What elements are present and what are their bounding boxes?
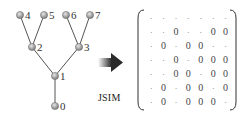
matrix-cell: · [157,67,169,81]
tree-node-4 [16,11,23,18]
matrix-cell: · [145,39,157,53]
matrix-cell: 0 [207,53,219,67]
node-label: 0 [60,100,66,112]
matrix-cell: 0 [195,95,207,109]
matrix-cell: 0 [219,25,231,39]
tree-edge [55,47,79,76]
matrix-cell: 0 [157,81,169,95]
matrix-cell: 0 [219,53,231,67]
matrix-cell: 0 [157,39,169,53]
matrix-cell: · [157,25,169,39]
matrix-cell: 0 [207,25,219,39]
matrix-cell: 0 [182,81,194,95]
tree-edges [20,15,90,106]
matrix-cell: 0 [170,67,182,81]
matrix-cell: · [145,53,157,67]
matrix-cell: · [219,39,231,53]
matrix-cell: 0 [170,53,182,67]
tree-nodes: 01234567 [16,9,101,112]
matrix-cell: 0 [219,81,231,95]
matrix-cell: · [145,67,157,81]
matrix-cell: · [195,25,207,39]
tree-node-3 [75,43,82,50]
matrix-cell: · [219,95,231,109]
node-label: 2 [37,41,43,53]
matrix-cell: · [195,67,207,81]
node-label: 1 [60,70,66,82]
matrix-cell: · [182,25,194,39]
node-label: 3 [84,41,90,53]
tree-node-1 [51,72,58,79]
jsim-matrix: ·········0··00·0·00····0·000··00·00·0·00… [137,8,237,112]
matrix-cell: 0 [182,67,194,81]
matrix-cell: · [145,95,157,109]
matrix-cell: · [207,11,219,25]
matrix-cell: 0 [182,95,194,109]
matrix-cell: · [207,39,219,53]
tree-node-5 [40,11,47,18]
node-label: 7 [95,9,101,21]
matrix-grid: ·········0··00·0·00····0·000··00·00·0·00… [145,11,232,109]
matrix-cell: · [170,81,182,95]
matrix-cell: · [219,11,231,25]
matrix-cell: · [170,95,182,109]
node-label: 6 [71,9,77,21]
matrix-cell: 0 [207,67,219,81]
matrix-cell: 0 [195,39,207,53]
node-label: 4 [25,9,31,21]
matrix-cell: 0 [182,39,194,53]
tree-node-0 [51,102,58,109]
tree-node-2 [28,43,35,50]
matrix-cell: 0 [195,53,207,67]
matrix-cell: 0 [195,81,207,95]
node-label: 5 [49,9,55,21]
matrix-cell: · [182,53,194,67]
jsim-label: JSIM [98,92,120,103]
matrix-cell: · [195,11,207,25]
matrix-cell: 0 [219,67,231,81]
tree-node-7 [86,11,93,18]
matrix-cell: · [145,25,157,39]
arrow-icon [98,53,123,72]
matrix-cell: · [157,53,169,67]
matrix-cell: 0 [157,95,169,109]
matrix-cell: 0 [207,95,219,109]
matrix-cell: · [170,11,182,25]
matrix-cell: · [157,11,169,25]
matrix-cell: 0 [170,25,182,39]
matrix-cell: · [207,81,219,95]
matrix-cell: · [145,11,157,25]
matrix-cell: · [182,11,194,25]
tree-edge [32,47,55,76]
tree-node-6 [62,11,69,18]
matrix-cell: · [145,81,157,95]
matrix-cell: · [170,39,182,53]
